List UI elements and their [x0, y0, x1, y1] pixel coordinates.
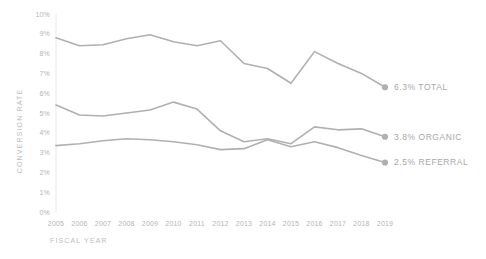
y-axis-title: CONVERSION RATE: [16, 89, 23, 173]
series-line-total: [56, 35, 385, 87]
series-end-label-referral: 2.5% REFERRAL: [394, 157, 468, 167]
x-axis-title: FISCAL YEAR: [50, 237, 108, 244]
y-tick-label: 3%: [39, 149, 50, 156]
y-tick-label: 4%: [39, 129, 50, 136]
y-tick-label: 5%: [39, 110, 50, 117]
series-line-referral: [56, 139, 385, 163]
y-tick-label: 6%: [39, 90, 50, 97]
series-endpoint-dots: [382, 84, 388, 165]
series-end-label-organic: 3.8% ORGANIC: [394, 132, 462, 142]
chart-canvas: 0%1%2%3%4%5%6%7%8%9%10% 2005200620072008…: [0, 0, 486, 259]
series-endpoint-dot-organic: [382, 134, 388, 140]
x-tick-label: 2009: [142, 220, 158, 227]
y-tick-label: 2%: [39, 169, 50, 176]
x-tick-label: 2010: [165, 220, 181, 227]
x-tick-label: 2016: [306, 220, 322, 227]
y-tick-label: 7%: [39, 70, 50, 77]
series-end-labels: 6.3% TOTAL3.8% ORGANIC2.5% REFERRAL: [394, 82, 468, 167]
series-line-organic: [56, 102, 385, 144]
x-tick-label: 2007: [95, 220, 111, 227]
x-tick-label: 2008: [118, 220, 134, 227]
x-tick-label: 2005: [48, 220, 64, 227]
x-tick-label: 2017: [330, 220, 346, 227]
x-axis-tick-labels: 2005200620072008200920102011201220132014…: [48, 220, 393, 227]
conversion-rate-line-chart: 0%1%2%3%4%5%6%7%8%9%10% 2005200620072008…: [0, 0, 486, 259]
series-end-label-total: 6.3% TOTAL: [394, 82, 448, 92]
series-endpoint-dot-referral: [382, 159, 388, 165]
y-tick-label: 9%: [39, 30, 50, 37]
x-tick-label: 2011: [189, 220, 205, 227]
series-endpoint-dot-total: [382, 84, 388, 90]
x-tick-label: 2013: [236, 220, 252, 227]
y-axis-tick-labels: 0%1%2%3%4%5%6%7%8%9%10%: [35, 11, 50, 216]
x-tick-label: 2019: [377, 220, 393, 227]
x-tick-label: 2006: [71, 220, 87, 227]
x-tick-label: 2014: [259, 220, 275, 227]
series-lines: [56, 35, 385, 163]
y-tick-label: 1%: [39, 189, 50, 196]
x-tick-label: 2015: [283, 220, 299, 227]
y-tick-label: 0%: [39, 209, 50, 216]
x-tick-label: 2018: [353, 220, 369, 227]
y-tick-label: 10%: [35, 11, 50, 18]
y-tick-label: 8%: [39, 50, 50, 57]
x-tick-label: 2012: [212, 220, 228, 227]
